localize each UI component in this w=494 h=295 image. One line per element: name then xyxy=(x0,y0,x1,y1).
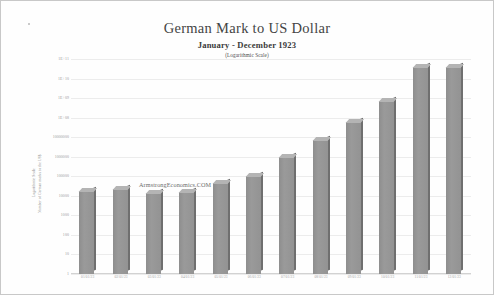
bar-top-face xyxy=(313,137,331,141)
grid-line xyxy=(71,215,471,216)
y-axis-tick-label: 1000 xyxy=(61,213,69,217)
x-axis-tick-label: 02/01/23 xyxy=(114,275,127,279)
x-axis-tick-label: 08/01/23 xyxy=(314,275,327,279)
x-axis-tick-label: 03/01/23 xyxy=(148,275,161,279)
grid-line xyxy=(71,118,471,119)
bar[interactable] xyxy=(313,140,330,274)
chart-subtitle: January - December 1923 xyxy=(1,40,493,50)
bar-front-face xyxy=(179,192,194,274)
bar[interactable] xyxy=(79,191,96,274)
bar[interactable] xyxy=(413,67,430,274)
bar-front-face xyxy=(213,183,228,274)
y-axis-tick-label: 10 xyxy=(65,252,69,256)
bar[interactable] xyxy=(113,189,130,274)
plot-area xyxy=(71,59,471,274)
grid-line xyxy=(71,79,471,80)
y-axis-tick-label: 1E+09 xyxy=(58,96,69,100)
grid-line xyxy=(71,176,471,177)
y-axis-tick-label: 1 xyxy=(67,272,69,276)
bar-front-face xyxy=(246,176,261,274)
bar[interactable] xyxy=(446,67,463,274)
bar[interactable] xyxy=(346,122,363,274)
bar-front-face xyxy=(113,189,128,274)
x-axis-tick-label: 09/01/23 xyxy=(348,275,361,279)
bar-front-face xyxy=(313,140,328,274)
bar-top-face xyxy=(446,64,464,68)
bar-front-face xyxy=(379,101,394,274)
x-axis-labels: 01/01/2302/01/2303/01/2304/01/2305/01/23… xyxy=(71,275,471,289)
x-axis-tick-label: 01/01/23 xyxy=(81,275,94,279)
chart-scale-note: (Logarithmic Scale) xyxy=(1,52,493,58)
x-axis-tick-label: 12/01/23 xyxy=(448,275,461,279)
bar-top-face xyxy=(279,154,297,158)
y-axis-title-scale: Logarithmic Scale xyxy=(32,168,36,197)
bar[interactable] xyxy=(179,192,196,274)
grid-line xyxy=(71,235,471,236)
y-axis-tick-label: 1E+08 xyxy=(58,116,69,120)
bar[interactable] xyxy=(279,157,296,274)
bar-front-face xyxy=(346,122,361,274)
grid-line xyxy=(71,137,471,138)
x-axis-tick-label: 10/01/23 xyxy=(381,275,394,279)
y-axis-tick-label: 1E+10 xyxy=(58,77,69,81)
bar-front-face xyxy=(413,67,428,274)
x-axis-tick-label: 11/01/23 xyxy=(414,275,427,279)
bar[interactable] xyxy=(379,101,396,274)
y-axis-tick-label: 100000 xyxy=(57,174,69,178)
y-axis-tick-label: 10000000 xyxy=(53,135,69,139)
bar[interactable] xyxy=(213,183,230,274)
bar-top-face xyxy=(413,64,431,68)
y-axis-tick-label: 1E+11 xyxy=(58,57,69,61)
bar-top-face xyxy=(246,173,264,177)
bar-front-face xyxy=(146,193,161,274)
y-axis-tick-label: 1000000 xyxy=(55,155,69,159)
grid-line xyxy=(71,98,471,99)
bar[interactable] xyxy=(246,176,263,274)
watermark: ArmstrongEconomics.COM xyxy=(139,181,211,188)
bar-front-face xyxy=(279,157,294,274)
bar-top-face xyxy=(213,180,231,184)
bar-front-face xyxy=(79,191,94,274)
bar-front-face xyxy=(446,67,461,274)
bar[interactable] xyxy=(146,193,163,274)
bar-top-face xyxy=(113,186,131,190)
x-axis-tick-label: 06/01/23 xyxy=(248,275,261,279)
y-axis-tick-label: 10000 xyxy=(59,194,69,198)
chart-title-block: German Mark to US Dollar January - Decem… xyxy=(1,20,493,58)
grid-line xyxy=(71,196,471,197)
chart-page: German Mark to US Dollar January - Decem… xyxy=(0,0,494,295)
grid-line xyxy=(71,157,471,158)
y-axis-tick-label: 100 xyxy=(63,233,69,237)
grid-line xyxy=(71,254,471,255)
x-axis-tick-label: 04/01/23 xyxy=(181,275,194,279)
y-axis-labels: 1E+111E+101E+091E+0810000000100000010000… xyxy=(37,59,69,274)
x-axis-tick-label: 05/01/23 xyxy=(214,275,227,279)
x-axis-tick-label: 07/01/23 xyxy=(281,275,294,279)
page-title: German Mark to US Dollar xyxy=(1,20,493,37)
grid-line xyxy=(71,59,471,60)
